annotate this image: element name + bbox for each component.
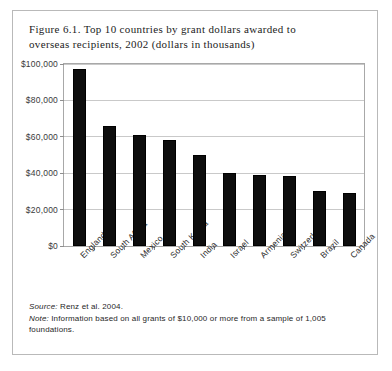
- y-axis-label: $20,000: [26, 205, 58, 215]
- bar: [313, 191, 326, 246]
- y-axis-label: $60,000: [26, 132, 58, 142]
- footnote-note: Note: Information based on all grants of…: [29, 313, 365, 336]
- bar: [103, 126, 116, 246]
- x-axis-label: Armenia: [258, 253, 265, 260]
- bar: [163, 140, 176, 246]
- y-axis-tick: [60, 246, 64, 247]
- bar: [223, 173, 236, 246]
- bar: [73, 69, 86, 246]
- x-axis-label: Brazil: [318, 253, 325, 260]
- y-axis-tick: [60, 173, 64, 174]
- x-axis-label: Switzerland: [288, 253, 295, 260]
- note-text: Information based on all grants of $10,0…: [29, 314, 326, 335]
- footnote-source: Source: Renz et al. 2004.: [29, 301, 365, 313]
- y-axis-label: $40,000: [26, 168, 58, 178]
- y-axis-tick: [60, 64, 64, 65]
- y-axis-label: $0: [48, 241, 58, 251]
- bar: [253, 175, 266, 246]
- y-axis-tick: [60, 100, 64, 101]
- x-axis-label: Mexico: [138, 253, 145, 260]
- gridline: [64, 100, 364, 101]
- bar: [133, 135, 146, 246]
- x-axis-label: South Korea: [168, 253, 175, 260]
- source-text: Renz et al. 2004.: [58, 302, 123, 311]
- gridline: [64, 64, 364, 65]
- y-axis-tick: [60, 136, 64, 137]
- plot-area: $0$20,000$40,000$60,000$80,000$100,000En…: [63, 63, 365, 247]
- bar: [343, 193, 356, 246]
- x-axis-label: England: [78, 253, 85, 260]
- figure-frame: Figure 6.1. Top 10 countries by grant do…: [12, 10, 378, 355]
- x-axis-label: India: [198, 253, 205, 260]
- bar: [283, 176, 296, 246]
- x-axis-label: Israel: [228, 253, 235, 260]
- bar: [193, 155, 206, 246]
- x-axis-label: Canada: [348, 253, 355, 260]
- y-axis-label: $80,000: [26, 95, 58, 105]
- source-label: Source:: [29, 302, 58, 311]
- y-axis-tick: [60, 209, 64, 210]
- y-axis-label: $100,000: [21, 59, 58, 69]
- note-label: Note:: [29, 314, 49, 323]
- figure-footnotes: Source: Renz et al. 2004. Note: Informat…: [29, 301, 365, 336]
- x-axis-label: South Africa: [108, 253, 115, 260]
